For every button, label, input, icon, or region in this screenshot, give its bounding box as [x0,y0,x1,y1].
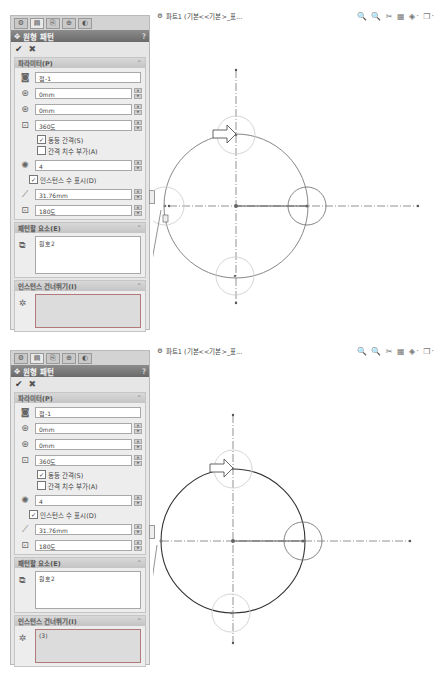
skip-instances-header[interactable]: 인스턴스 건너뛰기(I) ⌃ [15,281,145,291]
direction-field[interactable]: 점-1 [35,72,141,83]
entities-icon: ⧉ [19,240,25,251]
collapse-icon[interactable]: ⌃ [137,394,142,402]
center-y-spinner[interactable]: ▲▼ [134,104,142,115]
manager-tabs: ⚙ ▤ ⎘ ⊕ ◐ [11,16,149,30]
show-instance-count-checkbox[interactable]: ✓ 인스턴스 수 표시(D) [15,174,145,185]
checkbox-unchecked-icon[interactable] [37,146,46,155]
panel-title: 원형 패턴 [23,366,54,377]
radius-input[interactable]: 31.76mm [35,524,132,535]
collapse-icon[interactable]: ⌃ [137,59,142,67]
list-item[interactable]: 원호2 [39,574,137,583]
feature-manager-icon[interactable]: ⚙ [14,353,28,364]
center-y-icon: ⊛ [18,104,32,114]
panel-title-bar: ✥ 원형 패턴 ? [11,30,149,42]
cancel-button[interactable]: ✖ [29,44,37,54]
entities-group: 패턴할 요소(E) ⌃ ⧉ 원호2 [14,557,146,613]
panel-title: 원형 패턴 [23,31,54,42]
pattern-direction-icon[interactable]: ◙ [18,407,32,417]
center-y-input[interactable]: 0mm [35,439,132,450]
dimxpert-icon[interactable]: ⊕ [62,353,76,364]
radius-spinner[interactable]: ▲▼ [134,189,142,200]
collapse-icon[interactable]: ⌃ [137,224,142,232]
cancel-button[interactable]: ✖ [29,379,37,389]
direction-field[interactable]: 점-1 [35,407,141,418]
entities-list[interactable]: 원호2 [35,236,141,274]
parameters-header[interactable]: 파라미터(P) ⌃ [15,58,145,68]
property-manager-icon[interactable]: ▤ [30,353,44,364]
total-angle-input[interactable]: 360도 [35,455,132,466]
show-instance-count-checkbox[interactable]: ✓ 인스턴스 수 표시(D) [15,509,145,520]
collapse-icon[interactable]: ⌃ [137,617,142,625]
instances-input[interactable]: 4 [35,495,132,506]
arc-angle-spinner[interactable]: ▲▼ [134,205,142,216]
ok-button[interactable]: ✔ [15,44,23,54]
center-x-input[interactable]: 0mm [35,423,132,434]
display-manager-icon[interactable]: ◐ [78,353,92,364]
angle-icon: ⊡ [18,455,32,465]
sketch-drawing[interactable]: Y [153,10,441,340]
center-y-input[interactable]: 0mm [35,104,132,115]
skip-instances-list[interactable] [35,294,141,328]
center-y-spinner[interactable]: ▲▼ [134,439,142,450]
parameters-header[interactable]: 파라미터(P) ⌃ [15,393,145,403]
entities-header-label: 패턴할 요소(E) [18,223,61,233]
total-angle-spinner[interactable]: ▲▼ [134,455,142,466]
add-spacing-dim-checkbox[interactable]: 간격 치수 부가(A) [15,145,145,156]
panel-title-bar: ✥ 원형 패턴 ? [11,365,149,377]
configuration-manager-icon[interactable]: ⎘ [46,18,60,29]
entities-header[interactable]: 패턴할 요소(E) ⌃ [15,223,145,233]
help-button[interactable]: ? [142,367,146,376]
radius-icon: ⟋ [18,524,32,535]
configuration-manager-icon[interactable]: ⎘ [46,353,60,364]
collapse-icon[interactable]: ⌃ [137,282,142,290]
entities-header[interactable]: 패턴할 요소(E) ⌃ [15,558,145,568]
radius-input[interactable]: 31.76mm [35,189,132,200]
sketch-drawing[interactable]: Y [153,345,441,675]
angle-icon: ⊡ [18,120,32,130]
ok-button[interactable]: ✔ [15,379,23,389]
entities-group: 패턴할 요소(E) ⌃ ⧉ 원호2 [14,222,146,278]
arc-angle-icon: ⊡ [18,205,32,215]
checkbox-checked-icon[interactable]: ✓ [29,175,38,184]
list-item[interactable]: (3) [39,632,137,639]
parameters-group: 파라미터(P) ⌃ ◙ 점-1 ⊛ 0mm ▲▼ ⊛ 0mm ▲▼ ⊡ 360도… [14,392,146,555]
radius-spinner[interactable]: ▲▼ [134,524,142,535]
arc-angle-input[interactable]: 180도 [35,540,132,551]
dimxpert-icon[interactable]: ⊕ [62,18,76,29]
arc-angle-spinner[interactable]: ▲▼ [134,540,142,551]
center-y-icon: ⊛ [18,439,32,449]
checkbox-unchecked-icon[interactable] [37,481,46,490]
instances-spinner[interactable]: ▲▼ [134,160,142,171]
pattern-direction-icon[interactable]: ◙ [18,72,32,82]
center-x-icon: ⊛ [18,88,32,98]
list-item[interactable]: 원호2 [39,239,137,248]
total-angle-input[interactable]: 360도 [35,120,132,131]
graphics-area[interactable]: ⚙ 파트1 (기본<<기본>_표... 🔍 🔍 ✂ ▦ ◈· ❒· [153,10,441,340]
instances-spinner[interactable]: ▲▼ [134,495,142,506]
center-x-spinner[interactable]: ▲▼ [134,88,142,99]
collapse-icon[interactable]: ⌃ [137,559,142,567]
checkbox-checked-icon[interactable]: ✓ [29,510,38,519]
entities-header-label: 패턴할 요소(E) [18,558,61,568]
total-angle-spinner[interactable]: ▲▼ [134,120,142,131]
instances-input[interactable]: 4 [35,160,132,171]
center-x-input[interactable]: 0mm [35,88,132,99]
center-x-spinner[interactable]: ▲▼ [134,423,142,434]
property-manager-icon[interactable]: ▤ [30,18,44,29]
skip-instances-list[interactable]: (3) [35,629,141,663]
add-spacing-dim-checkbox[interactable]: 간격 치수 부가(A) [15,480,145,491]
equal-spacing-checkbox[interactable]: ✓ 동등 간격(S) [15,469,145,480]
skip-instances-header-label: 인스턴스 건너뛰기(I) [18,281,77,291]
equal-spacing-checkbox[interactable]: ✓ 동등 간격(S) [15,134,145,145]
display-manager-icon[interactable]: ◐ [78,18,92,29]
graphics-area[interactable]: ⚙ 파트1 (기본<<기본>_표... 🔍 🔍 ✂ ▦ ◈· ❒· [153,345,441,675]
checkbox-checked-icon[interactable]: ✓ [37,135,46,144]
show-instance-count-label: 인스턴스 수 표시(D) [40,175,96,185]
checkbox-checked-icon[interactable]: ✓ [37,470,46,479]
arc-angle-input[interactable]: 180도 [35,205,132,216]
skip-instances-header[interactable]: 인스턴스 건너뛰기(I) ⌃ [15,616,145,626]
add-spacing-dim-label: 간격 치수 부가(A) [48,146,98,156]
entities-list[interactable]: 원호2 [35,571,141,609]
help-button[interactable]: ? [142,32,146,41]
feature-manager-icon[interactable]: ⚙ [14,18,28,29]
